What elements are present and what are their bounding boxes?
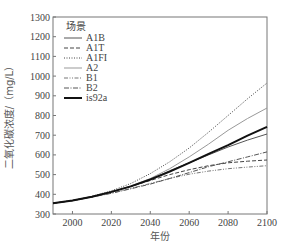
co2-concentration-chart: 3004005006007008009001000110012001300 20…	[0, 0, 287, 252]
y-tick-label: 1100	[30, 51, 50, 62]
x-tick-label: 2020	[101, 217, 121, 228]
legend-title: 场景	[66, 20, 86, 32]
y-tick-label: 1200	[30, 31, 50, 42]
y-tick-label: 1000	[30, 71, 50, 82]
x-tick-label: 2080	[218, 217, 238, 228]
legend-item-is92a: is92a	[64, 92, 108, 103]
y-tick-label: 1300	[30, 12, 50, 23]
x-tick-label: 2000	[62, 217, 82, 228]
y-tick-label: 400	[35, 189, 50, 200]
y-axis-ticks: 3004005006007008009001000110012001300	[30, 12, 56, 220]
series-line-a2	[53, 108, 267, 203]
x-axis-title: 年份	[150, 230, 170, 242]
y-tick-label: 700	[35, 130, 50, 141]
series-line-is92a	[53, 127, 267, 203]
legend-label: is92a	[86, 92, 108, 103]
y-tick-label: 900	[35, 90, 50, 101]
x-tick-label: 2060	[179, 217, 199, 228]
y-tick-label: 500	[35, 169, 50, 180]
series-line-a1b	[53, 134, 267, 203]
y-tick-label: 600	[35, 149, 50, 160]
y-tick-label: 300	[35, 209, 50, 220]
x-tick-label: 2100	[257, 217, 277, 228]
y-tick-label: 800	[35, 110, 50, 121]
legend: 场景A1BA1TA1FIA2B1B2is92a	[64, 20, 108, 103]
x-tick-label: 2040	[140, 217, 160, 228]
y-axis-title: 二氧化碳浓度/（mg/L）	[3, 61, 15, 169]
